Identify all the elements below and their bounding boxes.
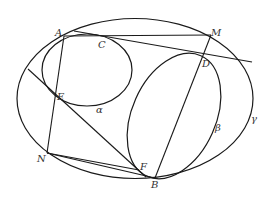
label-B: B — [150, 179, 158, 190]
label-E: E — [56, 91, 65, 102]
label-C: C — [98, 39, 106, 50]
label-beta: β — [214, 122, 221, 133]
label-alpha: α — [96, 104, 103, 115]
label-N: N — [36, 153, 47, 164]
label-F: F — [139, 161, 148, 172]
label-M: M — [210, 27, 222, 38]
segment-MB — [155, 35, 211, 178]
label-gamma: γ — [251, 113, 257, 124]
ellipse-beta — [109, 39, 239, 194]
label-A: A — [54, 27, 62, 38]
segment-AM — [64, 35, 211, 36]
geometry-figure: A C M D E N F B α β γ — [0, 0, 274, 198]
label-D: D — [201, 58, 210, 69]
segment-NB — [47, 153, 155, 178]
segment-NF — [47, 153, 139, 170]
